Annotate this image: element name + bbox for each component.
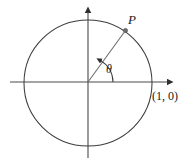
x-intercept-label: (1, 0) — [152, 90, 178, 102]
point-p-marker — [123, 28, 127, 32]
figure-canvas — [0, 0, 192, 160]
angle-theta-label: θ — [106, 63, 112, 75]
point-p-label: P — [128, 13, 136, 26]
unit-circle-figure: P θ (1, 0) — [0, 0, 192, 160]
